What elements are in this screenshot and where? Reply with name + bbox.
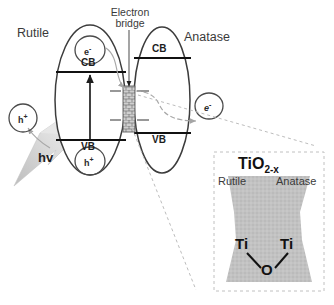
rutile-vb-label: VB xyxy=(81,142,95,153)
rutile-electron-charge: - xyxy=(89,45,91,52)
electron-bridge-label-line1: Electron xyxy=(111,6,150,18)
inset-atom-bridge: O xyxy=(261,262,273,278)
anatase-vb-label: VB xyxy=(152,135,166,146)
inset-anatase-label: Anatase xyxy=(276,176,316,188)
rutile-hole-charge: + xyxy=(90,156,94,163)
free-electron-charge: - xyxy=(209,101,211,108)
rutile-hole-label: h+ xyxy=(84,156,94,169)
rutile-label: Rutile xyxy=(17,27,49,41)
inset-atom-right: Ti xyxy=(280,236,293,252)
anatase-cb-label: CB xyxy=(152,44,166,55)
free-electron-label: e- xyxy=(204,101,211,114)
inset-atom-left: Ti xyxy=(235,236,248,252)
free-hole-charge: + xyxy=(24,113,28,120)
electron-bridge-label-line2: bridge xyxy=(115,17,144,29)
inset-formula-subscript: 2-x xyxy=(264,164,278,175)
rutile-electron-label: e- xyxy=(84,45,91,58)
figure-root: Rutile Anatase Electron bridge CB VB CB … xyxy=(0,0,334,305)
electron-bridge-label: Electron bridge xyxy=(101,7,159,30)
electron-bridge-column xyxy=(123,86,135,132)
inset-formula: TiO2-x xyxy=(238,155,279,176)
free-hole-label: h+ xyxy=(18,113,28,126)
anatase-label: Anatase xyxy=(184,31,230,45)
inset-rutile-label: Rutile xyxy=(218,176,246,188)
inset-formula-base: TiO xyxy=(238,155,264,172)
rutile-cb-label: CB xyxy=(81,58,95,69)
photon-label: hv xyxy=(38,151,53,165)
